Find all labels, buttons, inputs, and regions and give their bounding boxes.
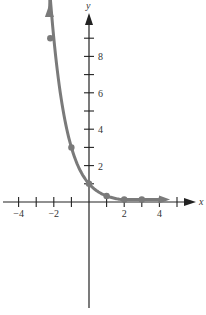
x-tick-label: −2 (48, 208, 59, 219)
y-tick-label: 6 (98, 88, 103, 99)
x-tick-label: 4 (157, 208, 162, 219)
y-tick-label: 8 (98, 51, 103, 62)
data-point (68, 144, 74, 150)
x-axis-label: x (198, 196, 204, 207)
data-point (121, 196, 127, 202)
x-tick-label: 2 (122, 208, 127, 219)
data-point (139, 196, 145, 202)
x-tick-label: −4 (13, 208, 24, 219)
axis-ticks (19, 38, 177, 207)
tick-labels: −4−2242468 (13, 51, 162, 219)
data-point (47, 35, 53, 41)
function-curve (45, 0, 170, 204)
data-point-markers (47, 35, 145, 203)
y-tick-label: 4 (98, 124, 103, 135)
data-point (103, 193, 109, 199)
exponential-decay-graph: −4−2242468 x y (0, 0, 206, 315)
y-axis-label: y (85, 0, 91, 11)
y-axis-arrow-icon (85, 13, 93, 25)
y-tick-label: 2 (98, 161, 103, 172)
x-axis-arrow-icon (184, 198, 196, 206)
data-point (86, 181, 92, 187)
curve-line (50, 0, 162, 200)
